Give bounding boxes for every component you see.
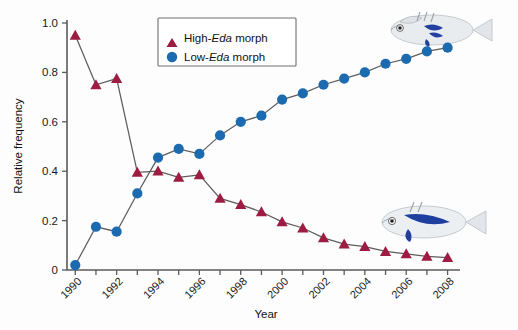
- x-axis-tick-label: 2002: [306, 275, 332, 301]
- data-point-marker: [256, 206, 267, 216]
- x-axis-tick-label: 1996: [182, 275, 208, 301]
- data-point-marker: [194, 169, 205, 179]
- x-axis-tick-label: 1998: [223, 275, 249, 301]
- data-point-marker: [70, 30, 81, 40]
- data-point-marker: [236, 117, 246, 127]
- data-point-marker: [360, 67, 370, 77]
- data-point-marker: [339, 73, 349, 83]
- data-point-marker: [298, 88, 308, 98]
- data-point-marker: [152, 166, 163, 176]
- data-point-marker: [112, 227, 122, 237]
- fish-illustration-high-eda: [391, 12, 492, 47]
- data-point-marker: [111, 73, 122, 83]
- chart-legend: High-Eda morph Low-Eda morph: [158, 18, 296, 66]
- relative-frequency-line-chart: 00.20.40.60.81.0 19901992199419961998200…: [0, 0, 518, 330]
- y-axis-tick-label: 0.4: [42, 165, 59, 177]
- data-point-marker: [91, 222, 101, 232]
- x-axis-title: Year: [254, 308, 277, 320]
- legend-label-low-eda: Low-Eda morph: [184, 51, 265, 63]
- data-point-marker: [318, 232, 329, 242]
- legend-marker-circle: [167, 52, 177, 62]
- x-axis-tick-label: 1994: [141, 275, 167, 301]
- x-axis-tick-label: 2000: [265, 275, 291, 301]
- data-point-marker: [401, 54, 411, 64]
- data-point-marker: [215, 130, 225, 140]
- y-axis-title: Relative frequency: [12, 98, 24, 193]
- fish-illustration-low-eda: [382, 202, 486, 242]
- data-point-marker: [277, 94, 287, 104]
- series-low-eda: [70, 43, 453, 271]
- x-axis-tick-label: 2006: [389, 275, 415, 301]
- x-axis-tick-label: 2008: [430, 275, 456, 301]
- data-point-marker: [153, 153, 163, 163]
- x-axis-tick-label: 2004: [347, 275, 373, 301]
- data-point-marker: [380, 59, 390, 69]
- data-point-marker: [277, 216, 288, 226]
- data-point-marker: [442, 43, 452, 53]
- data-point-marker: [174, 144, 184, 154]
- chart-figure: 00.20.40.60.81.0 19901992199419961998200…: [0, 0, 518, 330]
- y-axis-ticks: 00.20.40.60.81.0: [42, 17, 67, 276]
- data-point-marker: [422, 46, 432, 56]
- x-axis-tick-labels: 1990199219941996199820002002200420062008: [58, 275, 456, 301]
- y-axis-tick-label: 0.2: [42, 215, 58, 227]
- y-axis-tick-label: 1.0: [42, 17, 58, 29]
- data-point-marker: [194, 149, 204, 159]
- y-axis-tick-label: 0.6: [42, 116, 58, 128]
- y-axis-tick-label: 0: [52, 264, 58, 276]
- legend-label-high-eda: High-Eda morph: [184, 32, 268, 44]
- data-point-marker: [132, 188, 142, 198]
- data-point-marker: [256, 111, 266, 121]
- y-axis-tick-label: 0.8: [42, 66, 58, 78]
- data-point-marker: [318, 80, 328, 90]
- x-axis-tick-label: 1992: [99, 275, 125, 301]
- data-point-marker: [70, 260, 80, 270]
- x-axis-tick-label: 1990: [58, 275, 84, 301]
